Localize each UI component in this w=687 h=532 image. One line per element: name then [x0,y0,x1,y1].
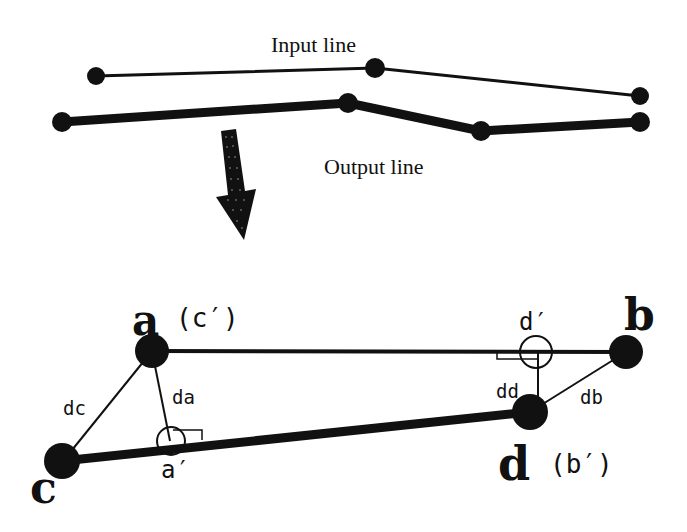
output-line-label: Output line [324,154,424,179]
output-vertex [630,112,650,132]
input-vertex [365,58,385,78]
label-dd: dd [496,380,519,402]
segment-ab [152,351,626,352]
label-d-prime: d′ [519,308,548,336]
vertex-b [609,335,643,369]
down-arrow-icon [216,129,256,240]
label-d: d [498,437,530,491]
input-vertex [631,87,649,105]
label-c: c [30,462,57,513]
top-section: Input line Output line [52,32,650,179]
label-b: b [624,289,655,340]
label-dc: dc [63,397,86,419]
bottom-section: a (c′) b c d (b′) a′ d′ dc da dd db [30,289,655,513]
label-a-alias: (c′) [176,303,239,333]
output-line [52,93,650,141]
diagram-canvas: Input line Output line [0,0,687,532]
label-a-prime: a′ [161,456,190,484]
label-db: db [580,386,603,408]
segment-cd [62,412,530,461]
input-vertex [87,67,105,85]
label-a: a [132,296,159,345]
output-vertex [52,112,72,132]
label-d-alias: (b′) [550,449,613,479]
right-angle-marker-a [173,430,202,440]
output-vertex [338,93,358,113]
input-line-label: Input line [271,32,356,57]
output-vertex [471,121,491,141]
label-da: da [172,386,195,408]
input-line [87,58,649,105]
